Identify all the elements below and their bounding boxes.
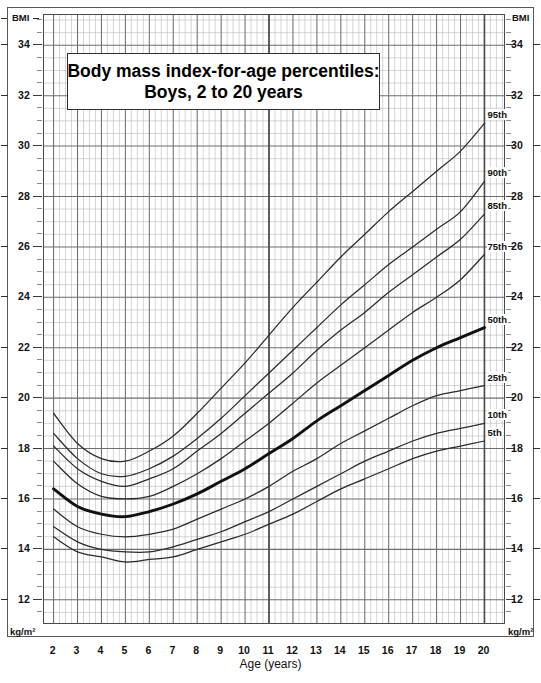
y-tick bbox=[37, 271, 42, 272]
y-axis-dash-right bbox=[533, 448, 540, 449]
y-axis-dash-right bbox=[533, 498, 540, 499]
x-axis-label-4: 4 bbox=[89, 644, 113, 656]
y-tick bbox=[37, 259, 42, 260]
y-tick bbox=[506, 359, 511, 360]
y-tick bbox=[506, 435, 511, 436]
y-tick bbox=[33, 44, 42, 45]
bmi-header-dash bbox=[33, 18, 39, 19]
y-axis-dash bbox=[1, 397, 8, 398]
y-tick bbox=[37, 611, 42, 612]
y-axis-unit-right: kg/m² bbox=[508, 626, 533, 637]
y-axis-dash-right bbox=[533, 397, 540, 398]
y-tick bbox=[37, 322, 42, 323]
y-axis-ticks-left bbox=[33, 14, 42, 624]
y-tick bbox=[37, 422, 42, 423]
x-axis-label-18: 18 bbox=[424, 644, 448, 656]
y-axis-dash bbox=[1, 347, 8, 348]
y-axis-dash bbox=[1, 44, 8, 45]
y-tick bbox=[33, 145, 42, 146]
x-axis-label-14: 14 bbox=[328, 644, 352, 656]
y-tick bbox=[33, 95, 42, 96]
percentile-label-50th: 50th bbox=[487, 314, 509, 325]
percentile-label-5th: 5th bbox=[487, 427, 503, 438]
y-axis-dash-right bbox=[533, 95, 540, 96]
bmi-header-dash bbox=[1, 18, 7, 19]
y-tick bbox=[506, 133, 511, 134]
y-axis-dash-right bbox=[533, 44, 540, 45]
y-axis-dash bbox=[1, 196, 8, 197]
y-tick bbox=[33, 548, 42, 549]
y-tick bbox=[37, 183, 42, 184]
chart-title-line2: Boys, 2 to 20 years bbox=[144, 82, 303, 103]
percentile-curve-85th bbox=[54, 214, 485, 486]
y-tick bbox=[37, 32, 42, 33]
chart-title-line1: Body mass index-for-age percentiles: bbox=[67, 61, 379, 82]
y-tick bbox=[37, 473, 42, 474]
y-tick bbox=[37, 82, 42, 83]
y-axis-dash-right bbox=[533, 548, 540, 549]
y-tick bbox=[33, 196, 42, 197]
x-axis-label-5: 5 bbox=[112, 644, 136, 656]
y-tick bbox=[33, 498, 42, 499]
y-tick bbox=[37, 511, 42, 512]
y-axis-dash bbox=[1, 246, 8, 247]
bmi-growth-chart: 343230282624222018161412 343230282624222… bbox=[0, 0, 541, 683]
percentile-label-85th: 85th bbox=[487, 200, 509, 211]
y-tick bbox=[37, 334, 42, 335]
y-axis-header-left: BMI bbox=[12, 12, 29, 23]
y-tick bbox=[506, 422, 511, 423]
y-tick bbox=[37, 208, 42, 209]
x-axis-title: Age (years) bbox=[0, 657, 541, 671]
y-tick bbox=[37, 586, 42, 587]
x-axis-label-11: 11 bbox=[256, 644, 280, 656]
x-axis-label-13: 13 bbox=[304, 644, 328, 656]
y-axis-unit-left: kg/m² bbox=[10, 626, 35, 637]
y-axis-dash bbox=[1, 296, 8, 297]
y-tick bbox=[506, 574, 511, 575]
y-axis-dash bbox=[1, 548, 8, 549]
y-axis-dash bbox=[1, 498, 8, 499]
y-axis-dash bbox=[1, 145, 8, 146]
y-tick bbox=[506, 19, 511, 20]
y-tick bbox=[506, 233, 511, 234]
y-tick bbox=[33, 397, 42, 398]
y-tick bbox=[506, 586, 511, 587]
y-axis-dash-right bbox=[533, 296, 540, 297]
y-axis-dash-right bbox=[533, 145, 540, 146]
y-tick bbox=[37, 233, 42, 234]
y-tick bbox=[37, 385, 42, 386]
y-tick bbox=[506, 221, 511, 222]
y-axis-dash-right bbox=[533, 599, 540, 600]
percentile-label-10th: 10th bbox=[487, 409, 509, 420]
y-tick bbox=[506, 284, 511, 285]
x-axis-label-15: 15 bbox=[352, 644, 376, 656]
y-tick bbox=[506, 385, 511, 386]
x-axis-label-17: 17 bbox=[400, 644, 424, 656]
y-tick bbox=[506, 561, 511, 562]
y-tick bbox=[37, 536, 42, 537]
y-axis-dash-right bbox=[533, 196, 540, 197]
percentile-curve-50th bbox=[54, 328, 485, 517]
y-tick bbox=[506, 485, 511, 486]
y-tick bbox=[37, 19, 42, 20]
percentile-label-25th: 25th bbox=[487, 372, 509, 383]
x-axis-label-12: 12 bbox=[280, 644, 304, 656]
y-tick bbox=[37, 221, 42, 222]
y-axis-dash-right bbox=[533, 347, 540, 348]
y-tick bbox=[506, 70, 511, 71]
y-tick bbox=[37, 435, 42, 436]
percentile-curve-95th bbox=[54, 123, 485, 461]
y-tick bbox=[37, 460, 42, 461]
y-tick bbox=[33, 347, 42, 348]
y-tick bbox=[37, 410, 42, 411]
percentile-curve-5th bbox=[54, 441, 485, 562]
y-tick bbox=[33, 246, 42, 247]
y-tick bbox=[37, 57, 42, 58]
percentile-curve-10th bbox=[54, 423, 485, 552]
percentile-curve-90th bbox=[54, 181, 485, 476]
y-tick bbox=[37, 359, 42, 360]
y-tick bbox=[37, 284, 42, 285]
y-tick bbox=[33, 296, 42, 297]
percentile-label-75th: 75th bbox=[487, 241, 509, 252]
y-tick bbox=[37, 372, 42, 373]
